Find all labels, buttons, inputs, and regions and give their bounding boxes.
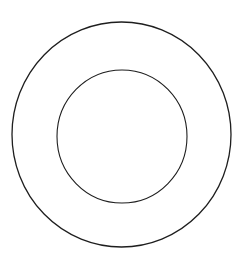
diagram-canvas — [0, 0, 244, 267]
concentric-circles-diagram — [0, 0, 244, 267]
background — [0, 0, 244, 267]
